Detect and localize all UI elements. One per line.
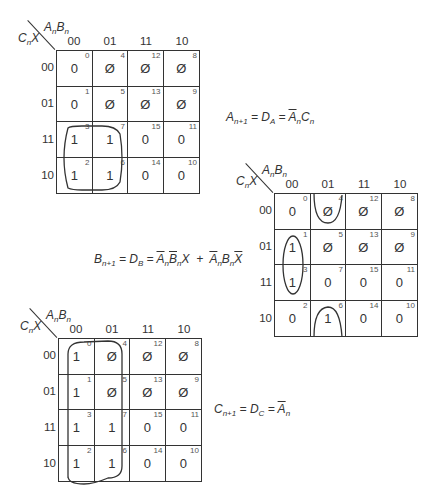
column-header: 01 (310, 178, 346, 190)
column-header: 10 (164, 35, 200, 47)
kmap-cell: 100 (166, 446, 202, 482)
cell-value: 1 (59, 420, 94, 435)
cell-value: 0 (57, 61, 92, 76)
cell-value: 0 (275, 204, 310, 219)
minterm-index: 3 (87, 410, 91, 419)
minterm-index: 8 (193, 51, 197, 60)
kmap-cell: 12Ø (128, 51, 164, 87)
minterm-index: 7 (339, 265, 343, 274)
kmap-cell: 20 (275, 301, 311, 337)
cell-value: 0 (130, 420, 165, 435)
minterm-index: 0 (85, 51, 89, 60)
kmap-cell: 11 (275, 230, 311, 266)
kmap-cell: 13Ø (346, 230, 382, 266)
cell-value: 1 (59, 456, 94, 471)
minterm-index: 1 (87, 375, 91, 384)
cell-value: 1 (275, 275, 310, 290)
row-header: 00 (250, 204, 272, 216)
cell-value: 1 (93, 168, 128, 183)
minterm-index: 10 (190, 446, 199, 455)
minterm-index: 4 (121, 51, 125, 60)
minterm-index: 0 (303, 194, 307, 203)
kmap-cell: 01 (59, 339, 95, 375)
cell-value: 1 (93, 132, 128, 147)
minterm-index: 13 (370, 230, 379, 239)
cell-value: 0 (311, 275, 346, 290)
cell-value: Ø (311, 240, 346, 255)
kmap-cell: 61 (311, 301, 347, 337)
minterm-index: 13 (154, 375, 163, 384)
cell-value: Ø (166, 385, 202, 400)
kmap-cell: 140 (130, 446, 166, 482)
row-header: 10 (32, 169, 54, 181)
kmap-cell: 9Ø (164, 87, 200, 123)
cell-value: Ø (130, 349, 165, 364)
minterm-index: 5 (121, 87, 125, 96)
cell-value: Ø (382, 240, 418, 255)
kmap-cell: 31 (275, 265, 311, 301)
kmap-cell: 5Ø (311, 230, 347, 266)
row-variables-label: CnX (18, 31, 39, 47)
cell-value: Ø (95, 349, 130, 364)
kmap-a: AnBn CnX 00011110 00011110 004Ø12Ø8Ø105Ø… (56, 50, 200, 194)
kmap-cell: 4Ø (93, 51, 129, 87)
minterm-index: 12 (154, 339, 163, 348)
column-header: 00 (56, 35, 92, 47)
kmap-cell: 110 (164, 122, 200, 158)
kmap-cell: 21 (59, 446, 95, 482)
column-header: 11 (128, 35, 164, 47)
minterm-index: 1 (85, 87, 89, 96)
kmap-cell: 4Ø (311, 194, 347, 230)
cell-value: 0 (346, 311, 381, 326)
kmap-cell: 8Ø (164, 51, 200, 87)
minterm-index: 12 (152, 51, 161, 60)
kmap-cell: 8Ø (166, 339, 202, 375)
row-header: 00 (32, 61, 54, 73)
kmap-cell: 31 (59, 410, 95, 446)
kmap-cell: 4Ø (95, 339, 131, 375)
minterm-index: 13 (152, 87, 161, 96)
cell-value: Ø (311, 204, 346, 219)
kmap-cell: 71 (93, 122, 129, 158)
cell-value: 0 (166, 420, 202, 435)
minterm-index: 6 (339, 301, 343, 310)
cell-value: Ø (346, 204, 381, 219)
kmap-cell: 140 (346, 301, 382, 337)
minterm-index: 3 (85, 122, 89, 131)
kmap-cell: 9Ø (166, 375, 202, 411)
column-header: 00 (58, 323, 94, 335)
kmap-cell: 21 (57, 158, 93, 194)
cell-value: 0 (164, 132, 200, 147)
row-header: 10 (34, 457, 56, 469)
minterm-index: 4 (123, 339, 127, 348)
minterm-index: 2 (87, 446, 91, 455)
column-variables-label: AnBn (46, 308, 71, 324)
column-variables-label: AnBn (44, 20, 69, 36)
kmap-cell: 61 (93, 158, 129, 194)
minterm-index: 12 (370, 194, 379, 203)
kmap-cell: 31 (57, 122, 93, 158)
minterm-index: 5 (339, 230, 343, 239)
kmap-cell: 70 (311, 265, 347, 301)
kmap-cell: 140 (128, 158, 164, 194)
kmap-cell: 100 (382, 301, 418, 337)
cell-value: 1 (95, 456, 130, 471)
equation-c: Cn+1 = DC = An (214, 402, 290, 418)
row-header: 01 (250, 240, 272, 252)
minterm-index: 1 (303, 230, 307, 239)
column-header: 01 (92, 35, 128, 47)
kmap-cell: 11 (59, 375, 95, 411)
cell-value: Ø (93, 97, 128, 112)
cell-value: Ø (93, 61, 128, 76)
minterm-index: 5 (123, 375, 127, 384)
kmap-cell: 00 (57, 51, 93, 87)
row-variables-label: CnX (236, 174, 257, 190)
cell-value: Ø (128, 97, 163, 112)
kmap-cell: 61 (95, 446, 131, 482)
cell-value: 0 (346, 275, 381, 290)
minterm-index: 6 (123, 446, 127, 455)
minterm-index: 7 (121, 122, 125, 131)
minterm-index: 3 (303, 265, 307, 274)
row-header: 00 (34, 349, 56, 361)
kmap-cell: 10 (57, 87, 93, 123)
